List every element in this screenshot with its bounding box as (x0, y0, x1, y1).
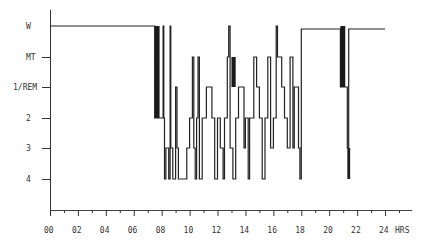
x-tick-label-04: 04 (100, 226, 110, 235)
y-label-w: W (26, 22, 31, 31)
y-label-mt: MT (26, 53, 36, 62)
x-tick-label-00: 00 (44, 226, 54, 235)
x-axis-title: HRS (395, 226, 410, 235)
x-tick-label-16: 16 (267, 226, 277, 235)
x-tick-label-06: 06 (128, 226, 138, 235)
x-tick-label-18: 18 (295, 226, 305, 235)
x-tick-label-20: 20 (323, 226, 333, 235)
x-tick-label-24: 24 (379, 226, 389, 235)
y-label-3: 3 (26, 144, 31, 153)
x-tick-label-14: 14 (239, 226, 249, 235)
hypnogram-chart: WMT1/REM234 00020406081012141618202224 H… (0, 0, 431, 248)
x-axis-labels: 00020406081012141618202224 (44, 210, 400, 235)
y-label-4: 4 (26, 175, 31, 184)
x-tick-label-02: 02 (72, 226, 82, 235)
x-tick-label-22: 22 (351, 226, 361, 235)
x-tick-label-10: 10 (184, 226, 194, 235)
y-label-2: 2 (26, 114, 31, 123)
x-tick-label-08: 08 (156, 226, 166, 235)
hypnogram-trace (50, 26, 385, 179)
x-tick-label-12: 12 (212, 226, 222, 235)
y-axis-labels: WMT1/REM234 (13, 22, 50, 184)
y-label-1-rem: 1/REM (13, 83, 37, 92)
